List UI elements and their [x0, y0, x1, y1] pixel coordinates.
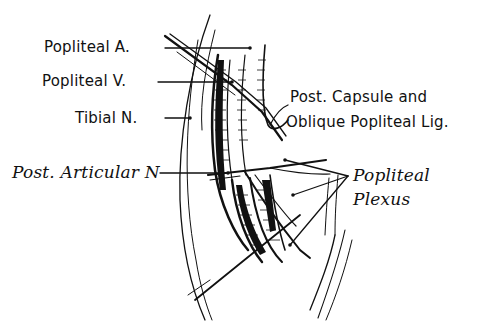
label-post-capsule: Post. Capsule and	[290, 88, 427, 106]
label-post-articular-nerve: Post. Articular N	[12, 163, 160, 181]
label-popliteal-plexus-line2: Plexus	[353, 190, 410, 208]
label-oblique-popliteal-ligament: Oblique Popliteal Lig.	[286, 113, 449, 131]
label-tibial-nerve: Tibial N.	[75, 109, 137, 127]
label-popliteal-artery: Popliteal A.	[44, 38, 130, 56]
anatomical-diagram: Popliteal A. Popliteal V. Tibial N. Post…	[0, 0, 482, 324]
label-popliteal-plexus-line1: Popliteal	[353, 166, 430, 184]
label-popliteal-vein: Popliteal V.	[42, 72, 126, 90]
